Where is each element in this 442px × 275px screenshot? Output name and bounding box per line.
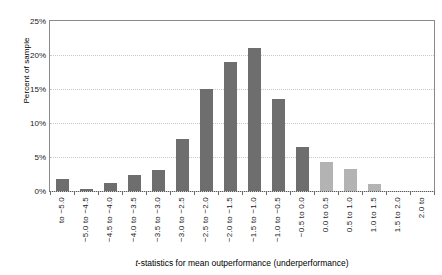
x-axis-tick <box>362 191 363 195</box>
bar <box>296 147 309 191</box>
x-axis-tick-label: −1.0 to −0.5 <box>273 197 282 242</box>
bar <box>200 89 213 191</box>
y-axis-tick-label: 0% <box>34 187 46 196</box>
x-axis-tick-label: −0.5 to 0.0 <box>297 197 306 237</box>
x-axis-tick-label: −4.5 to −4.0 <box>105 197 114 242</box>
bar <box>176 139 189 191</box>
x-axis-tick-label: 1.5 to 2.0 <box>393 197 402 232</box>
x-axis-tick <box>386 191 387 195</box>
x-axis-tick-label: 0.5 to 1.0 <box>345 197 354 232</box>
bar <box>320 162 333 191</box>
bar <box>56 179 69 191</box>
x-axis-tick <box>146 191 147 195</box>
x-axis-tick-label: −2.0 to −1.5 <box>225 197 234 242</box>
bar <box>152 170 165 191</box>
x-axis-tick-label: 1.0 to 1.5 <box>369 197 378 232</box>
x-axis-tick-label: −3.5 to −3.0 <box>153 197 162 242</box>
chart-figure: Percent of sample 0%5%10%15%20%25% to −5… <box>0 0 442 275</box>
x-axis-tick <box>194 191 195 195</box>
x-axis-tick <box>98 191 99 195</box>
plot-area: 0%5%10%15%20%25% <box>49 20 435 192</box>
x-axis-tick <box>434 191 435 195</box>
bar-series <box>50 21 434 191</box>
bar <box>104 183 117 191</box>
x-axis-tick <box>74 191 75 195</box>
bar <box>80 189 93 191</box>
x-axis-tick-label: −5.0 to −4.5 <box>81 197 90 242</box>
x-axis-tick <box>338 191 339 195</box>
bar <box>368 184 381 191</box>
x-axis-tick <box>242 191 243 195</box>
y-axis-tick-label: 20% <box>30 51 46 60</box>
x-axis-tick-label: −4.0 to −3.5 <box>129 197 138 242</box>
x-axis-tick-label: −1.5 to −1.0 <box>249 197 258 242</box>
x-axis-tick <box>218 191 219 195</box>
y-axis-tick-label: 25% <box>30 17 46 26</box>
x-axis-tick <box>314 191 315 195</box>
bar <box>224 62 237 191</box>
x-axis-tick <box>170 191 171 195</box>
bar <box>272 99 285 191</box>
bar <box>248 48 261 191</box>
x-axis-tick-label: −3.0 to −2.5 <box>177 197 186 242</box>
y-axis-tick-label: 10% <box>30 119 46 128</box>
x-axis-title-rest: -statistics for mean outperformance (und… <box>138 258 349 268</box>
x-axis-tick <box>122 191 123 195</box>
bar <box>344 169 357 191</box>
x-axis-tick <box>290 191 291 195</box>
y-axis-tick-label: 5% <box>34 153 46 162</box>
x-axis-tick-label: 0.0 to 0.5 <box>321 197 330 232</box>
x-axis-tick <box>266 191 267 195</box>
y-axis-tick-label: 15% <box>30 85 46 94</box>
bar <box>128 175 141 191</box>
x-axis-tick-label: to −5.0 <box>57 197 66 223</box>
x-axis-tick-label: 2.0 to <box>417 197 426 218</box>
x-axis-title: t-statistics for mean outperformance (un… <box>49 258 435 268</box>
x-axis-tick-label: −2.5 to −2.0 <box>201 197 210 242</box>
x-axis-tick <box>50 191 51 195</box>
x-axis-tick <box>410 191 411 195</box>
